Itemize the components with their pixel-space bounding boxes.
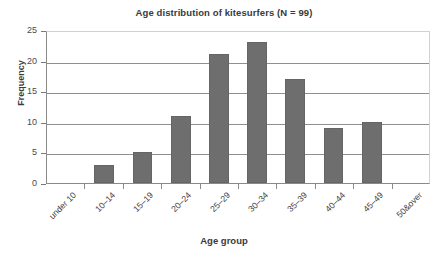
x-axis-tick (161, 184, 162, 189)
bar (94, 165, 114, 183)
bar (362, 122, 382, 183)
y-axis-label: 5 (0, 148, 37, 157)
y-axis-label: 0 (0, 179, 37, 188)
bar-series (47, 32, 429, 183)
bar-slot (85, 32, 123, 183)
y-axis-label: 20 (0, 57, 37, 66)
bar-slot (123, 32, 161, 183)
bar-slot (200, 32, 238, 183)
x-axis-labels: under 1010–1415–1920–2425–2930–3435–3940… (46, 190, 430, 236)
x-axis-tick (353, 184, 354, 189)
x-axis-title: Age group (0, 235, 448, 246)
bar (209, 54, 229, 183)
bar-slot (391, 32, 429, 183)
y-axis-label: 25 (0, 26, 37, 35)
chart-title: Age distribution of kitesurfers (N = 99) (0, 7, 448, 18)
bar-slot (238, 32, 276, 183)
x-axis-tick (392, 184, 393, 189)
bar (133, 152, 153, 183)
y-axis-label: 15 (0, 87, 37, 96)
bar-slot (162, 32, 200, 183)
bar-chart: Age distribution of kitesurfers (N = 99)… (0, 0, 448, 259)
bar-slot (47, 32, 85, 183)
bar (171, 116, 191, 183)
bar-slot (276, 32, 314, 183)
bar-slot (314, 32, 352, 183)
x-axis-tick (315, 184, 316, 189)
x-axis-tick (123, 184, 124, 189)
y-axis-label: 10 (0, 118, 37, 127)
x-axis-tick (276, 184, 277, 189)
bar (247, 42, 267, 183)
y-axis-tick (41, 184, 46, 185)
bar-slot (353, 32, 391, 183)
x-axis-tick (84, 184, 85, 189)
x-axis-tick (200, 184, 201, 189)
bar (285, 79, 305, 183)
plot-area (46, 31, 430, 184)
bar (324, 128, 344, 183)
x-axis-tick (238, 184, 239, 189)
